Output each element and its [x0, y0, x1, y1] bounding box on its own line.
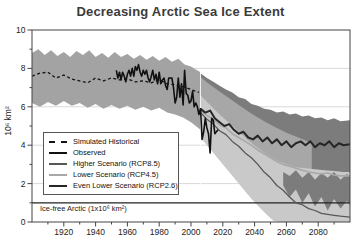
chart-container: Decreasing Arctic Sea Ice Extent 10⁶ km²…	[0, 0, 361, 243]
y-tick-label: 10	[16, 25, 26, 35]
x-tick-label: 2060	[277, 227, 296, 237]
legend-box: Simulated Historical Observed Higher Sce…	[43, 132, 179, 195]
legend-item-label: Observed	[73, 148, 106, 157]
x-tick-label: 2020	[213, 227, 232, 237]
solid-line-swatch-icon	[49, 152, 67, 154]
legend-item-even-lower-scenario: Even Lower Scenario (RCP2.6)	[49, 180, 174, 191]
y-tick-label: 6	[21, 102, 26, 112]
y-tick-label: 2	[21, 179, 26, 189]
x-tick-label: 1980	[150, 227, 169, 237]
x-tick-label: 2000	[182, 227, 201, 237]
legend-item-label: Simulated Historical	[73, 137, 139, 146]
x-tick-label: 2080	[309, 227, 328, 237]
x-tick-label: 1960	[118, 227, 137, 237]
historical-band	[32, 49, 201, 130]
x-tick-label: 2040	[245, 227, 264, 237]
dashed-line-swatch-icon	[49, 141, 67, 143]
y-tick-label: 4	[21, 140, 26, 150]
x-tick-label: 1920	[54, 227, 73, 237]
x-tick-label: 1940	[86, 227, 105, 237]
legend-item-higher-scenario: Higher Scenario (RCP8.5)	[49, 158, 174, 169]
solid-line-swatch-icon	[49, 174, 67, 176]
solid-line-swatch-icon	[49, 163, 67, 165]
legend-item-label: Lower Scenario (RCP4.5)	[73, 170, 158, 179]
legend-item-simulated-historical: Simulated Historical	[49, 136, 174, 147]
y-tick-label: 8	[21, 63, 26, 73]
ice-free-annotation: Ice-free Arctic (1x10⁶ km²)	[40, 204, 127, 213]
legend-item-label: Higher Scenario (RCP8.5)	[73, 159, 160, 168]
legend-item-label: Even Lower Scenario (RCP2.6)	[73, 181, 178, 190]
legend-item-lower-scenario: Lower Scenario (RCP4.5)	[49, 169, 174, 180]
solid-line-swatch-icon	[49, 185, 67, 187]
legend-item-observed: Observed	[49, 147, 174, 158]
y-tick-label: 0	[21, 217, 26, 227]
